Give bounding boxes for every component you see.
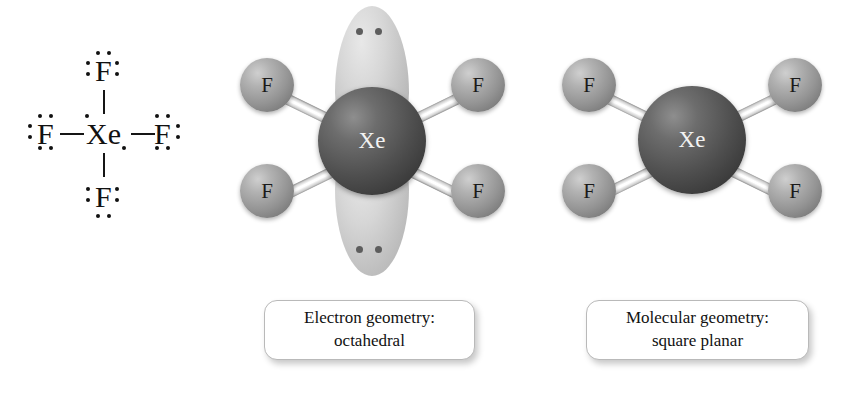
lone-pair-dot <box>107 214 111 218</box>
lone-pair-dot <box>115 198 119 202</box>
caption-molecular-geometry: Molecular geometry: square planar <box>586 300 809 360</box>
caption-electron-geometry-line1: Electron geometry: <box>304 307 435 330</box>
lewis-bond-top <box>103 90 105 114</box>
lewis-structure-xef4: F F Xe F F <box>18 48 213 233</box>
lewis-bond-bottom <box>103 153 105 177</box>
lone-pair-dot <box>166 114 170 118</box>
atom-fluorine-upper-right: F <box>768 58 822 112</box>
atom-fluorine-lower-right: F <box>768 164 822 218</box>
lone-pair-dot <box>96 214 100 218</box>
lewis-atom-xe-center: Xe <box>86 119 121 149</box>
lone-pair-dot <box>38 114 42 118</box>
lone-pair-dot <box>86 61 90 65</box>
atom-fluorine-upper-left: F <box>562 58 616 112</box>
lewis-bond-left <box>60 133 84 135</box>
atom-fluorine-lower-left: F <box>562 164 616 218</box>
electron-geometry-model: Xe F F F F <box>232 2 512 280</box>
atom-fluorine-upper-left: F <box>240 58 294 112</box>
lobe-electron-dot <box>356 246 363 253</box>
lone-pair-dot <box>38 146 42 150</box>
lone-pair-dot <box>28 135 32 139</box>
caption-molecular-geometry-line1: Molecular geometry: <box>626 307 769 330</box>
lobe-electron-dot <box>375 28 382 35</box>
lone-pair-dot <box>86 72 90 76</box>
lewis-bond-right <box>131 133 155 135</box>
caption-molecular-geometry-line2: square planar <box>652 330 743 353</box>
lone-pair-dot <box>49 114 53 118</box>
lone-pair-dot <box>115 72 119 76</box>
atom-fluorine-upper-right: F <box>451 58 505 112</box>
lone-pair-dot <box>28 124 32 128</box>
lobe-electron-dot <box>375 246 382 253</box>
lone-pair-dot <box>107 51 111 55</box>
lone-pair-dot <box>86 198 90 202</box>
lone-pair-dot <box>166 146 170 150</box>
lobe-electron-dot <box>356 28 363 35</box>
figure-canvas: F F Xe F F <box>0 0 842 416</box>
lewis-atom-f-top: F <box>95 56 112 86</box>
caption-electron-geometry-line2: octahedral <box>334 330 405 353</box>
molecular-geometry-model: Xe F F F F <box>556 52 828 232</box>
lewis-atom-f-bottom: F <box>95 182 112 212</box>
atom-fluorine-lower-right: F <box>451 164 505 218</box>
caption-electron-geometry: Electron geometry: octahedral <box>264 300 475 360</box>
lone-pair-dot <box>86 187 90 191</box>
lone-pair-dot <box>176 124 180 128</box>
lone-pair-dot <box>115 187 119 191</box>
atom-xenon-center: Xe <box>318 87 426 195</box>
lone-pair-dot <box>176 135 180 139</box>
lone-pair-dot <box>49 146 53 150</box>
lone-pair-dot <box>155 114 159 118</box>
lewis-atom-f-left: F <box>37 119 54 149</box>
lone-pair-dot <box>155 146 159 150</box>
central-lone-pair-dot <box>122 146 126 150</box>
central-lone-pair-dot <box>85 114 89 118</box>
lone-pair-dot <box>96 51 100 55</box>
lone-pair-dot <box>115 61 119 65</box>
lewis-atom-f-right: F <box>154 119 171 149</box>
atom-xenon-center: Xe <box>638 86 746 194</box>
atom-fluorine-lower-left: F <box>240 164 294 218</box>
